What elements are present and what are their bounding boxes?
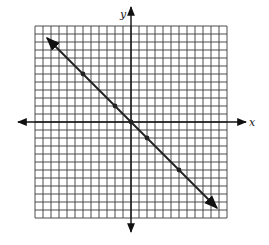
data-point [81, 72, 86, 77]
axes [18, 7, 246, 232]
data-point [113, 104, 118, 109]
data-point [129, 120, 134, 125]
y-axis-label: y [119, 8, 127, 21]
data-point [177, 168, 182, 173]
data-point [145, 136, 150, 141]
x-axis-label: x [249, 116, 256, 129]
plotted-line [47, 38, 217, 208]
coordinate-plane: y x [0, 0, 269, 245]
